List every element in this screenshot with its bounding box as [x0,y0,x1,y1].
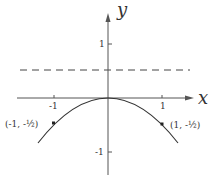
point-label-left: (-1, -½) [5,119,38,129]
point-label-right: (1, -½) [170,120,200,130]
x-tick-label: -1 [49,101,58,111]
x-arrow-icon [185,96,194,101]
y-axis: 1 -1 y [95,0,128,175]
y-tick-label: -1 [95,147,104,157]
x-axis-label: x [198,87,208,108]
x-axis: -1 1 x [17,87,208,111]
y-arrow-icon [106,13,111,22]
point-marker [52,122,55,125]
x-tick-label: 1 [160,101,166,111]
parabola-diagram: -1 1 x 1 -1 y (-1, -½) (1, -½) [0,0,219,177]
y-tick-label: 1 [99,39,105,49]
point-marker [161,123,164,126]
y-axis-label: y [116,0,128,20]
